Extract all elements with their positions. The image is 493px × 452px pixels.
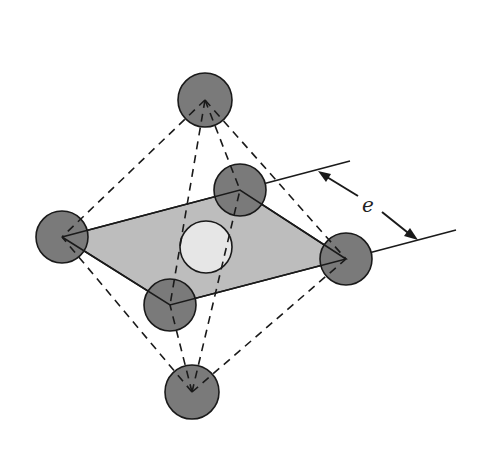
dimension-label-e: e [362,193,374,217]
octahedral-site-diagram: e [0,0,493,452]
interstitial-atom [180,221,232,273]
